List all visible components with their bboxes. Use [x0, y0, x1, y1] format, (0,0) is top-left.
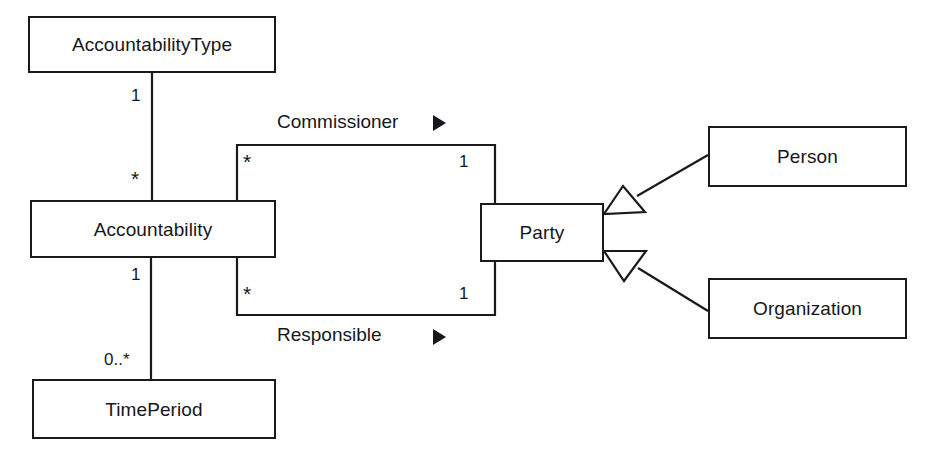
- multiplicity-accountabilitytype-1: 1: [131, 87, 140, 104]
- connector-generalization-person: [637, 155, 708, 196]
- association-direction-arrow-commissioner: [433, 115, 446, 131]
- class-box-time-period[interactable]: TimePeriod: [32, 379, 276, 439]
- class-box-person[interactable]: Person: [708, 126, 907, 187]
- uml-class-diagram: AccountabilityType Accountability TimePe…: [0, 0, 935, 468]
- class-name-party: Party: [520, 223, 565, 242]
- association-direction-arrow-responsible: [433, 329, 446, 345]
- class-box-accountability-type[interactable]: AccountabilityType: [28, 16, 276, 73]
- connector-commissioner: [237, 145, 495, 203]
- class-box-party[interactable]: Party: [480, 203, 604, 262]
- class-box-accountability[interactable]: Accountability: [30, 200, 276, 258]
- multiplicity-accountability-star: *: [131, 168, 139, 189]
- multiplicity-timeperiod-zero-to-many: 0..*: [104, 351, 130, 368]
- class-name-organization: Organization: [753, 299, 862, 318]
- class-name-time-period: TimePeriod: [105, 400, 202, 419]
- multiplicity-responsible-source-star: *: [243, 283, 251, 304]
- generalization-triangle-organization: [604, 251, 646, 281]
- association-label-commissioner: Commissioner: [277, 112, 398, 131]
- connector-generalization-organization: [638, 268, 708, 311]
- class-name-accountability: Accountability: [94, 220, 213, 239]
- class-name-accountability-type: AccountabilityType: [72, 35, 232, 54]
- multiplicity-responsible-target-1: 1: [459, 285, 468, 302]
- connector-responsible: [237, 258, 495, 315]
- multiplicity-commissioner-source-star: *: [243, 151, 251, 172]
- association-label-responsible: Responsible: [277, 325, 382, 344]
- class-name-person: Person: [777, 147, 838, 166]
- multiplicity-commissioner-target-1: 1: [459, 153, 468, 170]
- class-box-organization[interactable]: Organization: [708, 278, 907, 339]
- generalization-triangle-person: [604, 186, 645, 214]
- multiplicity-accountability-timeperiod-1: 1: [131, 266, 140, 283]
